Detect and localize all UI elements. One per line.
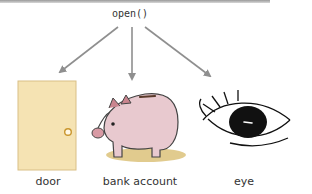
label-door: door (0, 175, 98, 188)
label-eye: eye (194, 175, 294, 188)
eye-icon (200, 90, 290, 146)
arrow-to-door (60, 27, 118, 72)
label-bank-account: bank account (90, 175, 190, 188)
piggy-bank-icon (92, 94, 186, 162)
arrow-to-eye (145, 27, 210, 76)
diagram-canvas (0, 0, 312, 194)
door-icon (18, 81, 76, 170)
